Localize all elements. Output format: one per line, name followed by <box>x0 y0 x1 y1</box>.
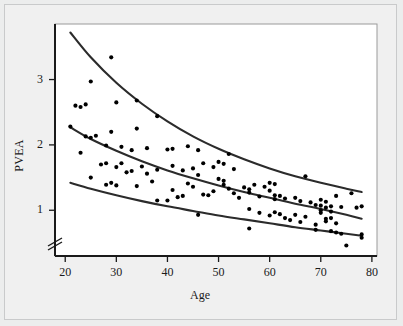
data-point <box>268 213 272 217</box>
data-point <box>181 168 185 172</box>
data-point <box>319 204 323 208</box>
x-axis-tick-label: 60 <box>255 265 285 280</box>
data-point <box>78 105 82 109</box>
data-point <box>155 198 159 202</box>
data-point <box>278 194 282 198</box>
data-point <box>84 134 88 138</box>
data-point <box>283 216 287 220</box>
data-point <box>319 198 323 202</box>
data-point <box>334 221 338 225</box>
data-point <box>283 196 287 200</box>
data-point <box>247 226 251 230</box>
data-point <box>216 177 220 181</box>
data-point <box>186 144 190 148</box>
y-axis-tick-label: 1 <box>21 202 43 217</box>
data-point <box>288 218 292 222</box>
data-point <box>273 210 277 214</box>
data-point <box>242 185 246 189</box>
data-point <box>150 179 154 183</box>
data-point <box>334 194 338 198</box>
data-point <box>334 230 338 234</box>
data-point <box>222 183 226 187</box>
x-axis-tick-label: 80 <box>357 265 387 280</box>
data-point <box>135 126 139 130</box>
x-axis-label: Age <box>160 288 240 303</box>
data-point <box>273 197 277 201</box>
y-axis-label: PVEA <box>12 126 27 186</box>
data-point <box>124 170 128 174</box>
data-point <box>135 184 139 188</box>
data-point <box>140 164 144 168</box>
data-point <box>262 185 266 189</box>
data-point <box>303 215 307 219</box>
data-point <box>170 188 174 192</box>
data-point <box>273 193 277 197</box>
plot-background <box>55 24 377 256</box>
x-axis-tick-label: 20 <box>50 265 80 280</box>
data-point <box>145 146 149 150</box>
data-point <box>324 206 328 210</box>
data-point <box>222 179 226 183</box>
data-point <box>89 176 93 180</box>
data-point <box>298 199 302 203</box>
data-point <box>89 136 93 140</box>
data-point <box>73 104 77 108</box>
data-point <box>329 216 333 220</box>
data-point <box>298 220 302 224</box>
data-point <box>303 174 307 178</box>
data-point <box>232 191 236 195</box>
data-point <box>314 223 318 227</box>
data-point <box>222 162 226 166</box>
data-point <box>170 164 174 168</box>
data-point <box>68 125 72 129</box>
data-point <box>130 148 134 152</box>
data-point <box>314 203 318 207</box>
data-point <box>165 198 169 202</box>
y-axis-tick-label: 3 <box>21 72 43 87</box>
data-point <box>319 211 323 215</box>
data-point <box>104 183 108 187</box>
data-point <box>329 209 333 213</box>
data-point <box>114 165 118 169</box>
data-point <box>109 130 113 134</box>
data-point <box>201 193 205 197</box>
data-point <box>257 211 261 215</box>
data-point <box>135 98 139 102</box>
data-point <box>314 228 318 232</box>
data-point <box>196 173 200 177</box>
data-point <box>119 161 123 165</box>
data-point <box>278 212 282 216</box>
data-point <box>216 160 220 164</box>
data-point <box>191 166 195 170</box>
data-point <box>273 182 277 186</box>
data-point <box>84 102 88 106</box>
data-point <box>211 165 215 169</box>
data-point <box>104 143 108 147</box>
data-point <box>247 191 251 195</box>
data-point <box>268 189 272 193</box>
data-point <box>339 205 343 209</box>
data-point <box>268 181 272 185</box>
data-point <box>155 114 159 118</box>
scatter-chart: 123 20304050607080 PVEA Age <box>0 0 403 326</box>
data-point <box>89 79 93 83</box>
data-point <box>237 196 241 200</box>
data-point <box>104 161 108 165</box>
data-point <box>354 206 358 210</box>
data-point <box>232 167 236 171</box>
data-point <box>109 55 113 59</box>
data-point <box>186 181 190 185</box>
data-point <box>130 169 134 173</box>
data-point <box>119 145 123 149</box>
data-point <box>293 213 297 217</box>
data-point <box>196 148 200 152</box>
data-point <box>252 183 256 187</box>
data-point <box>176 195 180 199</box>
data-point <box>247 207 251 211</box>
data-point <box>227 187 231 191</box>
data-point <box>114 183 118 187</box>
data-point <box>349 191 353 195</box>
data-point <box>94 134 98 138</box>
data-point <box>109 181 113 185</box>
data-point <box>170 147 174 151</box>
